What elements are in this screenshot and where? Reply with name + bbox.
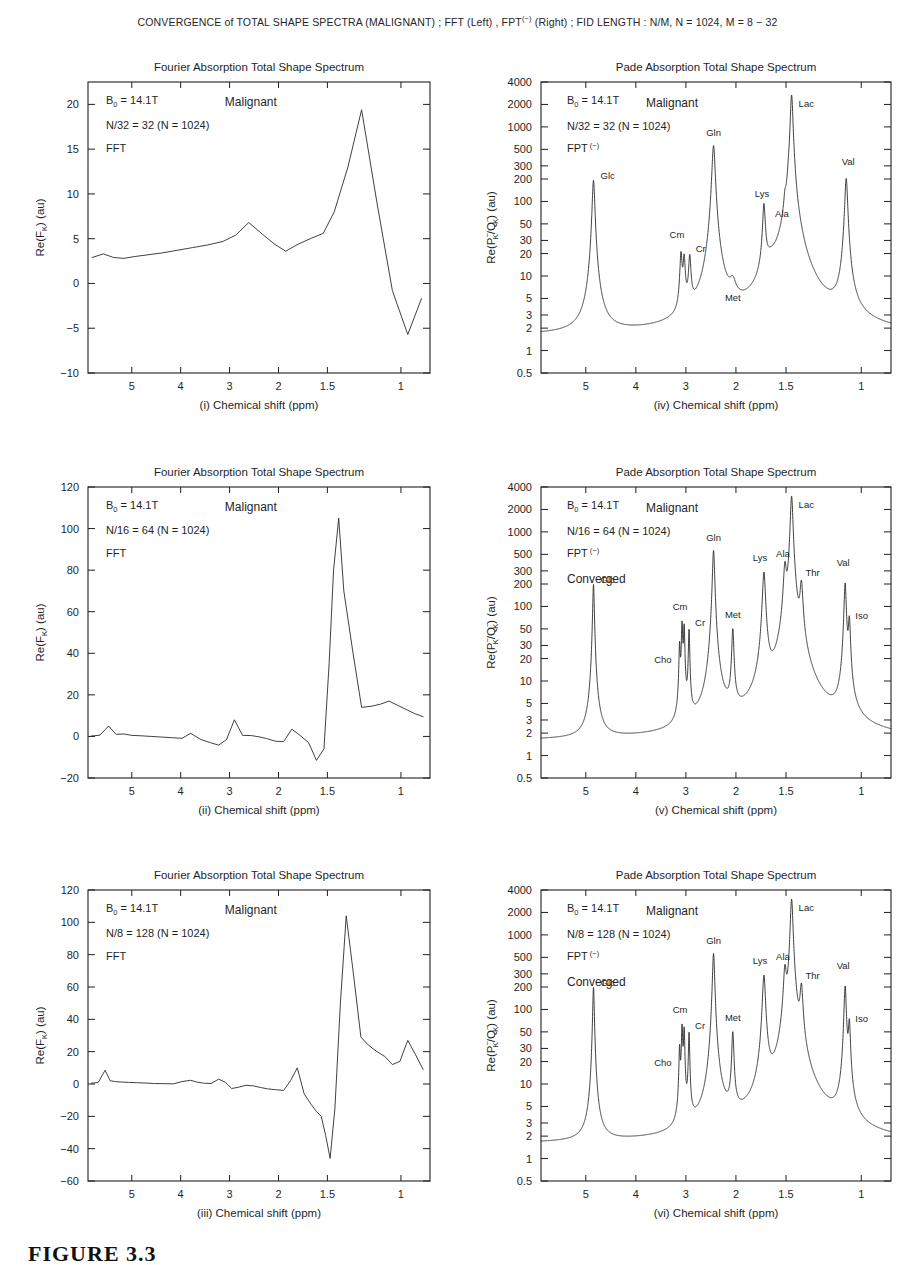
x-tick-label: 3 bbox=[227, 380, 233, 392]
x-tick-label: 2 bbox=[733, 785, 739, 797]
x-tick-label: 5 bbox=[583, 380, 589, 392]
x-tick-label: 3 bbox=[227, 785, 233, 797]
y-axis-label: Re(P−K/Q−K) (au) bbox=[483, 999, 500, 1072]
x-tick-label: 1.5 bbox=[778, 380, 793, 392]
annotation-fid-length: N/8 = 128 (N = 1024) bbox=[567, 928, 670, 940]
x-tick-label: 5 bbox=[129, 1188, 135, 1200]
supertitle-superscript: (−) bbox=[522, 14, 532, 23]
y-tick-label: 2 bbox=[526, 322, 532, 334]
y-tick-label: 20 bbox=[67, 1046, 79, 1058]
y-tick-label: 2000 bbox=[508, 906, 532, 918]
annotation-fid-length: N/16 = 64 (N = 1024) bbox=[106, 524, 209, 536]
y-tick-label: −20 bbox=[60, 1110, 79, 1122]
y-tick-label: 5 bbox=[73, 233, 79, 245]
y-tick-label: 0.5 bbox=[517, 772, 532, 784]
x-tick-label: 3 bbox=[227, 1188, 233, 1200]
figure-supertitle: CONVERGENCE of TOTAL SHAPE SPECTRA (MALI… bbox=[0, 14, 915, 28]
y-tick-label: 200 bbox=[514, 578, 532, 590]
y-tick-label: 20 bbox=[67, 98, 79, 110]
y-tick-label: 1000 bbox=[508, 121, 532, 133]
annotation-method: FFT bbox=[106, 950, 126, 962]
x-tick-label: 3 bbox=[683, 785, 689, 797]
y-tick-label: 0.5 bbox=[517, 367, 532, 379]
y-tick-label: 1 bbox=[526, 1153, 532, 1165]
y-tick-label: 50 bbox=[520, 218, 532, 230]
peak-label-cm: Cm bbox=[673, 601, 688, 612]
x-tick-label: 5 bbox=[129, 785, 135, 797]
peak-label-thr: Thr bbox=[805, 567, 819, 578]
y-tick-label: 60 bbox=[67, 606, 79, 618]
x-axis-label: (vi) Chemical shift (ppm) bbox=[654, 1207, 779, 1219]
x-tick-label: 4 bbox=[633, 1188, 639, 1200]
peak-label-lac: Lac bbox=[799, 902, 815, 913]
y-tick-label: 3 bbox=[526, 714, 532, 726]
y-tick-label: 500 bbox=[514, 143, 532, 155]
x-tick-label: 4 bbox=[178, 1188, 184, 1200]
annotation-fid-length: N/8 = 128 (N = 1024) bbox=[106, 927, 209, 939]
x-tick-label: 1 bbox=[858, 1188, 864, 1200]
peak-label-lys: Lys bbox=[753, 955, 768, 966]
annotation-tissue: Malignant bbox=[225, 95, 278, 109]
y-tick-label: 2000 bbox=[508, 98, 532, 110]
panel-ii: Fourier Absorption Total Shape Spectrum5… bbox=[26, 463, 446, 824]
annotation-fid-length: N/32 = 32 (N = 1024) bbox=[106, 119, 209, 131]
figure-root: CONVERGENCE of TOTAL SHAPE SPECTRA (MALI… bbox=[0, 0, 915, 1265]
peak-label-lys: Lys bbox=[755, 188, 770, 199]
peak-label-cr: Cr bbox=[695, 1020, 705, 1031]
annotation-method: FPT(−) bbox=[567, 546, 600, 559]
y-tick-label: 15 bbox=[67, 143, 79, 155]
x-tick-label: 4 bbox=[633, 785, 639, 797]
peak-label-gln: Gln bbox=[706, 127, 721, 138]
annotation-tissue: Malignant bbox=[646, 96, 699, 110]
y-tick-label: −20 bbox=[60, 772, 79, 784]
y-tick-label: 50 bbox=[520, 623, 532, 635]
svg-text:Re(P−K/Q−K) (au): Re(P−K/Q−K) (au) bbox=[483, 191, 500, 264]
y-tick-label: 5 bbox=[526, 1100, 532, 1112]
y-tick-label: −10 bbox=[60, 367, 79, 379]
y-tick-label: 300 bbox=[514, 565, 532, 577]
y-tick-label: 500 bbox=[514, 548, 532, 560]
figure-caption: FIGURE 3.3 bbox=[28, 1241, 157, 1265]
y-tick-label: 5 bbox=[526, 697, 532, 709]
peak-label-gln: Gln bbox=[706, 532, 721, 543]
peak-label-val: Val bbox=[837, 960, 850, 971]
svg-text:Re(P−K/Q−K) (au): Re(P−K/Q−K) (au) bbox=[483, 596, 500, 669]
x-tick-label: 1 bbox=[858, 380, 864, 392]
y-tick-label: 0 bbox=[73, 1078, 79, 1090]
y-tick-label: 30 bbox=[520, 1042, 532, 1054]
y-tick-label: 40 bbox=[67, 1013, 79, 1025]
annotation-tissue: Malignant bbox=[225, 500, 278, 514]
peak-label-ala: Ala bbox=[776, 951, 790, 962]
peak-label-iso: Iso bbox=[855, 1013, 868, 1024]
annotation-tissue: Malignant bbox=[646, 501, 699, 515]
annotation-field: B0 = 14.1T bbox=[567, 94, 619, 109]
x-tick-label: 4 bbox=[178, 380, 184, 392]
svg-text:Re(P−K/Q−K) (au): Re(P−K/Q−K) (au) bbox=[483, 999, 500, 1072]
x-axis-label: (v) Chemical shift (ppm) bbox=[655, 804, 777, 816]
y-tick-label: 100 bbox=[514, 195, 532, 207]
panel-title: Pade Absorption Total Shape Spectrum bbox=[616, 61, 817, 73]
y-axis-label: Re(FK) (au) bbox=[34, 198, 49, 256]
x-tick-label: 2 bbox=[733, 1188, 739, 1200]
annotation-tissue: Malignant bbox=[646, 904, 699, 918]
annotation-converged: Converged bbox=[567, 572, 626, 586]
y-tick-label: 1000 bbox=[508, 526, 532, 538]
y-axis-label: Re(P−K/Q−K) (au) bbox=[483, 191, 500, 264]
y-tick-label: 10 bbox=[520, 675, 532, 687]
x-tick-label: 5 bbox=[129, 380, 135, 392]
y-tick-label: 10 bbox=[520, 1078, 532, 1090]
panel-i: Fourier Absorption Total Shape Spectrum5… bbox=[26, 58, 446, 419]
y-tick-label: 5 bbox=[526, 292, 532, 304]
y-tick-label: 20 bbox=[67, 689, 79, 701]
annotation-field: B0 = 14.1T bbox=[567, 902, 619, 917]
y-tick-label: 500 bbox=[514, 951, 532, 963]
panel-vi: Pade Absorption Total Shape Spectrum5432… bbox=[479, 866, 907, 1227]
y-tick-label: 60 bbox=[67, 981, 79, 993]
annotation-fid-length: N/16 = 64 (N = 1024) bbox=[567, 525, 670, 537]
peak-label-gln: Gln bbox=[706, 935, 721, 946]
annotation-field: B0 = 14.1T bbox=[106, 902, 158, 917]
peak-label-lys: Lys bbox=[753, 552, 768, 563]
x-tick-label: 1 bbox=[398, 785, 404, 797]
y-tick-label: 10 bbox=[520, 270, 532, 282]
x-tick-label: 2 bbox=[275, 1188, 281, 1200]
